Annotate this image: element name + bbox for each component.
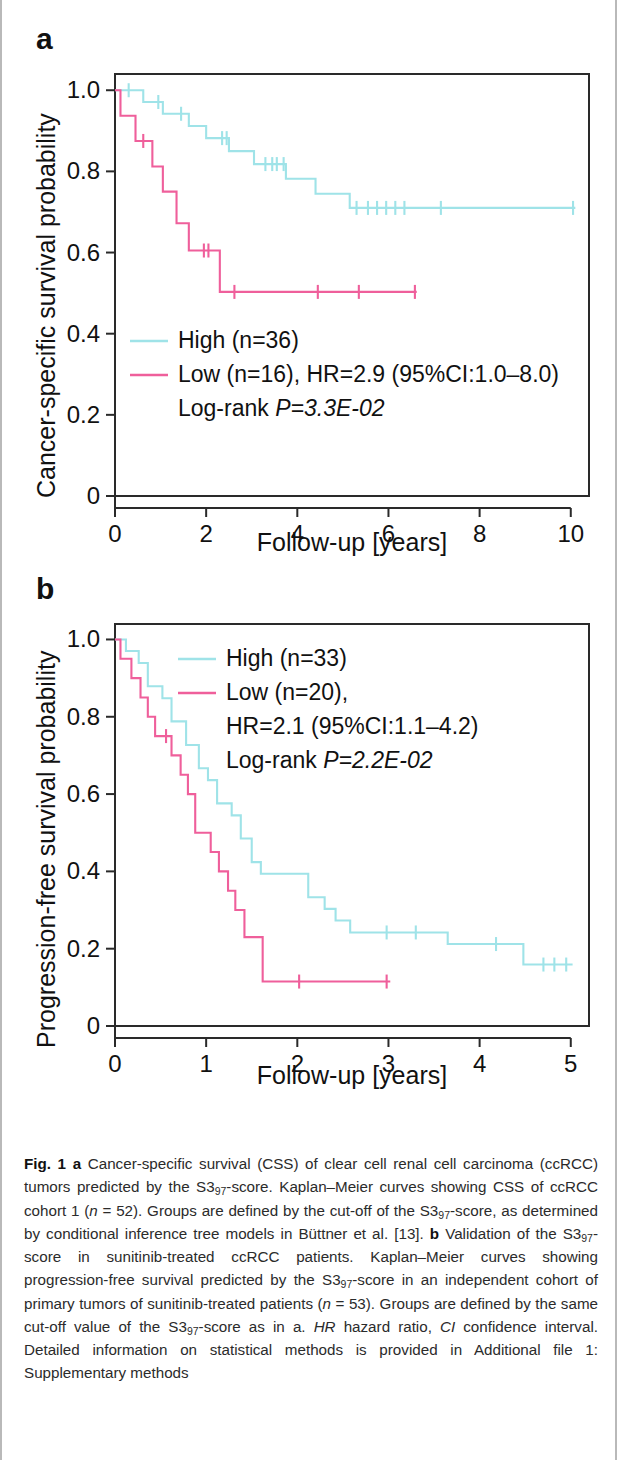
legend-label-logrank: Log-rank P=3.3E-02 — [178, 395, 385, 421]
x-tick-label: 0 — [108, 520, 121, 547]
caption-run-16: n — [323, 1295, 331, 1312]
panel-a: a Cancer-specific survival probability F… — [2, 8, 617, 568]
figure-container: a Cancer-specific survival probability F… — [0, 0, 617, 1460]
y-tick-label: 0.4 — [67, 857, 100, 884]
caption-run-2: a — [73, 1155, 81, 1172]
y-tick-label: 0 — [87, 482, 100, 509]
x-tick-label: 4 — [291, 520, 304, 547]
caption-run-4: 97 — [215, 1185, 227, 1197]
legend-label-low2: HR=2.1 (95%CI:1.1–4.2) — [226, 713, 479, 739]
x-tick-label: 4 — [473, 1050, 486, 1077]
plot-frame — [115, 624, 589, 1026]
caption-run-19: -score as in a. — [199, 1318, 314, 1335]
x-tick-label: 2 — [199, 520, 212, 547]
caption-run-0: Fig. 1 — [24, 1155, 66, 1172]
caption-run-11: Validation of the S3 — [439, 1225, 581, 1242]
caption-run-14: 97 — [341, 1278, 353, 1290]
caption-run-21: hazard ratio, — [336, 1318, 440, 1335]
x-tick-label: 6 — [382, 520, 395, 547]
x-tick-label: 3 — [382, 1050, 395, 1077]
panel-a-plot: 00.20.40.60.81.00246810High (n=36)Low (n… — [2, 8, 617, 568]
x-tick-label: 0 — [108, 1050, 121, 1077]
y-tick-label: 0.6 — [67, 239, 100, 266]
legend-label-low: Low (n=20), — [226, 679, 348, 705]
x-tick-label: 1 — [199, 1050, 212, 1077]
figure-caption: Fig. 1 a Cancer-specific survival (CSS) … — [24, 1152, 598, 1385]
caption-run-12: 97 — [581, 1232, 593, 1244]
y-tick-label: 0.8 — [67, 157, 100, 184]
caption-run-20: HR — [314, 1318, 336, 1335]
x-tick-label: 2 — [291, 1050, 304, 1077]
legend-label-logrank: Log-rank P=2.2E-02 — [226, 747, 433, 773]
caption-run-7: = 52). Groups are defined by the cut-off… — [98, 1202, 439, 1219]
legend-label-high: High (n=33) — [226, 645, 347, 671]
x-tick-label: 8 — [473, 520, 486, 547]
caption-run-22: CI — [440, 1318, 455, 1335]
x-tick-label: 10 — [557, 520, 584, 547]
panel-b-plot: 00.20.40.60.81.0012345High (n=33)Low (n=… — [2, 566, 617, 1106]
km-curve — [115, 90, 575, 208]
legend-label-low: Low (n=16), HR=2.9 (95%CI:1.0–8.0) — [178, 361, 559, 387]
caption-run-10: b — [430, 1225, 439, 1242]
km-curve — [115, 90, 417, 292]
y-tick-label: 0 — [87, 1012, 100, 1039]
y-tick-label: 0.4 — [67, 320, 100, 347]
y-tick-label: 0.2 — [67, 935, 100, 962]
panel-b: b Progression-free survival probability … — [2, 566, 617, 1106]
plot-frame — [115, 74, 589, 496]
caption-run-8: 97 — [438, 1209, 450, 1221]
caption-run-1 — [66, 1155, 73, 1172]
legend-label-high: High (n=36) — [178, 327, 299, 353]
caption-run-18: 97 — [187, 1325, 199, 1337]
y-tick-label: 0.2 — [67, 401, 100, 428]
caption-run-6: n — [89, 1202, 97, 1219]
y-tick-label: 0.8 — [67, 703, 100, 730]
y-tick-label: 0.6 — [67, 780, 100, 807]
y-tick-label: 1.0 — [67, 76, 100, 103]
x-tick-label: 5 — [564, 1050, 577, 1077]
y-tick-label: 1.0 — [67, 625, 100, 652]
